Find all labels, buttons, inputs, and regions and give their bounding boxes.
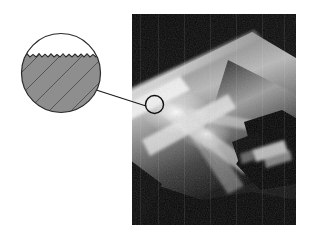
photo-panel: [132, 14, 296, 225]
figure-root: [0, 0, 310, 239]
photo-grain: [132, 14, 296, 225]
photo-image: [132, 14, 296, 225]
inspection-target-circle: [144, 94, 165, 115]
magnified-surface-detail: [18, 30, 104, 116]
callout-drawing: [18, 30, 104, 116]
target-circle-outline: [144, 94, 165, 115]
